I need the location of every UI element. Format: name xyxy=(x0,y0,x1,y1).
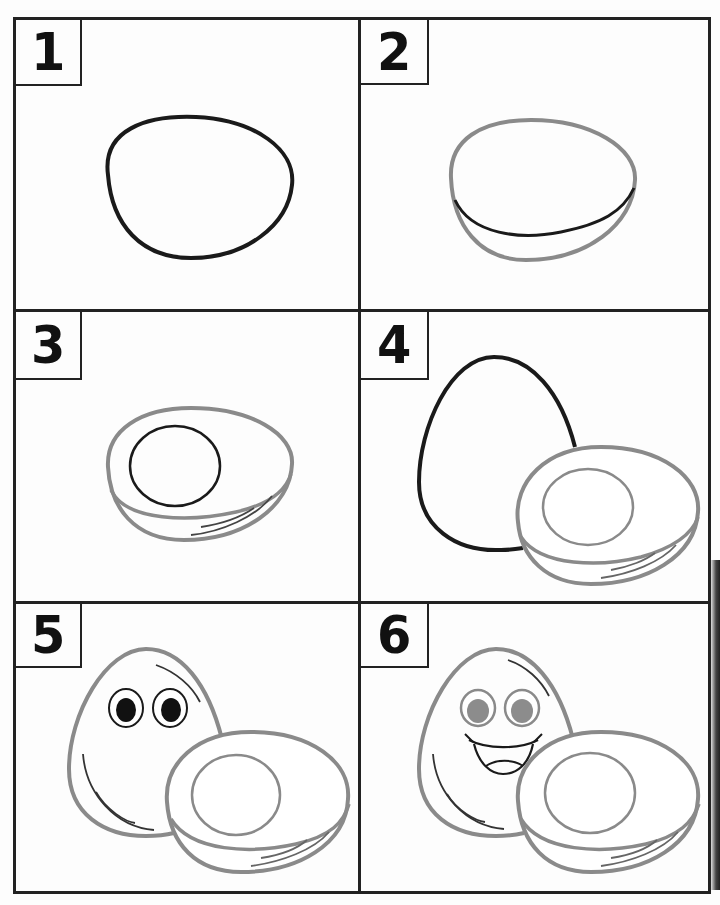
egg-outline-drawing xyxy=(16,20,362,310)
step-panel-6: 6 xyxy=(361,604,707,894)
egg-half-with-yolk-drawing xyxy=(16,312,362,602)
step-panel-4: 4 xyxy=(361,312,707,602)
smiling-egg-final-drawing xyxy=(361,604,707,894)
egg-half-shell-drawing xyxy=(361,20,707,310)
step-panel-1: 1 xyxy=(16,20,362,310)
step-panel-3: 3 xyxy=(16,312,362,602)
whole-egg-and-half-drawing xyxy=(361,312,707,602)
step-panel-5: 5 xyxy=(16,604,362,894)
drawing-sheet: 1 2 3 4 xyxy=(0,0,720,905)
page-edge-shadow xyxy=(710,560,720,890)
step-panel-2: 2 xyxy=(361,20,707,310)
egg-with-eyes-drawing xyxy=(16,604,362,894)
